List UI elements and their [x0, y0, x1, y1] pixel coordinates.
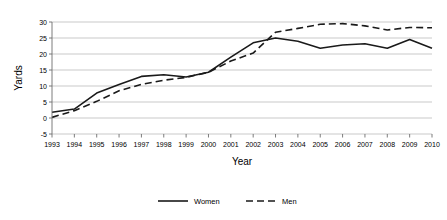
y-tick-label: 20	[39, 51, 47, 58]
y-axis-title: Yards	[13, 65, 24, 90]
x-tick-label: 2005	[312, 141, 328, 148]
x-tick-label: 2000	[201, 141, 217, 148]
y-tick-label: 0	[43, 115, 47, 122]
x-tick-label: 2009	[402, 141, 418, 148]
x-tick-label: 1999	[178, 141, 194, 148]
line-chart: -5051015202530 1993199419951996199719981…	[0, 0, 447, 220]
gridlines-group	[49, 22, 432, 134]
x-tick-label: 1996	[111, 141, 127, 148]
x-tick-label: 2008	[380, 141, 396, 148]
x-tick-label: 1993	[44, 141, 60, 148]
y-tick-label: 5	[43, 99, 47, 106]
x-tick-label: 2002	[245, 141, 261, 148]
x-tick-label: 2001	[223, 141, 239, 148]
x-tick-label: 2004	[290, 141, 306, 148]
tick-marks-group	[52, 134, 432, 138]
x-tick-label: 2007	[357, 141, 373, 148]
y-tick-label: 15	[39, 67, 47, 74]
x-tick-label: 1995	[89, 141, 105, 148]
y-tick-label: -5	[41, 131, 47, 138]
x-tick-label: 1998	[156, 141, 172, 148]
y-tick-label: 25	[39, 35, 47, 42]
y-tick-label: 30	[39, 19, 47, 26]
x-tick-label: 2006	[335, 141, 351, 148]
legend-label-men: Men	[282, 197, 297, 206]
x-axis-title: Year	[232, 156, 253, 167]
y-axis-tick-labels: -5051015202530	[39, 19, 47, 138]
x-tick-label: 1994	[67, 141, 83, 148]
series-line-women	[52, 38, 432, 112]
legend-label-women: Women	[194, 197, 220, 206]
x-tick-label: 2003	[268, 141, 284, 148]
x-tick-label: 2010	[424, 141, 440, 148]
y-tick-label: 10	[39, 83, 47, 90]
legend: WomenMen	[158, 197, 297, 206]
x-tick-label: 1997	[134, 141, 150, 148]
chart-canvas: -5051015202530 1993199419951996199719981…	[0, 0, 447, 220]
x-axis-tick-labels: 1993199419951996199719981999200020012002…	[44, 141, 440, 148]
